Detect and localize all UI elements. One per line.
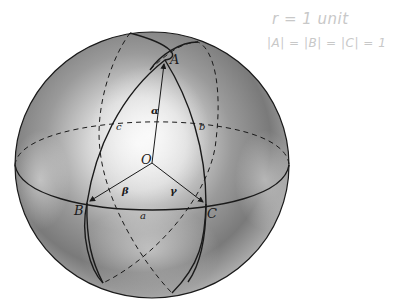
spherical-triangle-figure: A B C O α β γ a b c r = 1 unit |A| = |B|… [0, 0, 396, 308]
magnitude-annotation: |A| = |B| = |C| = 1 [267, 36, 386, 50]
label-point-b: B [73, 203, 84, 218]
label-angle-gamma: γ [170, 185, 177, 196]
label-angle-beta: β [121, 185, 129, 196]
label-side-a: a [140, 210, 146, 221]
label-angle-alpha: α [151, 105, 159, 116]
label-side-b: b [199, 121, 205, 132]
label-side-c: c [116, 121, 122, 132]
label-origin-o: O [141, 152, 152, 167]
radius-annotation: r = 1 unit [272, 10, 349, 28]
label-point-a: A [169, 52, 179, 67]
label-point-c: C [207, 206, 217, 221]
